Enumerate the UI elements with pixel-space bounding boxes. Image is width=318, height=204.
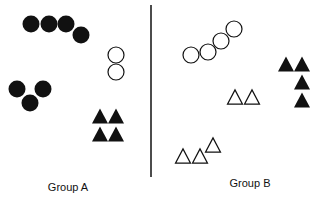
filled-triangle-b [294, 92, 310, 107]
open-triangle-b [206, 138, 221, 152]
filled-circle-a [35, 81, 52, 98]
open-triangle-b [176, 149, 191, 163]
filled-triangle-b [294, 74, 310, 89]
open-triangle-b [228, 90, 243, 104]
filled-circle-a [23, 16, 40, 33]
filled-triangle-a [92, 108, 108, 123]
filled-triangle-b [278, 56, 294, 71]
group-b-label: Group B [230, 177, 271, 189]
filled-triangle-a [108, 126, 124, 141]
open-triangle-b [193, 149, 208, 163]
open-circle-a [108, 47, 124, 63]
open-circle-b [226, 21, 242, 37]
open-circle-b [213, 33, 229, 49]
open-circle-a [108, 64, 124, 80]
filled-triangle-a [108, 108, 124, 123]
group-comparison-diagram: Group A Group B [0, 0, 318, 204]
filled-triangle-a [92, 126, 108, 141]
open-triangle-b [245, 90, 260, 104]
filled-circle-a [9, 81, 26, 98]
filled-circle-a [58, 16, 75, 33]
diagram-canvas [0, 0, 318, 204]
filled-circle-a [73, 27, 90, 44]
open-circle-b [200, 44, 216, 60]
open-circle-b [183, 47, 199, 63]
filled-circle-a [22, 95, 39, 112]
filled-circle-a [41, 16, 58, 33]
group-a-label: Group A [48, 181, 88, 193]
filled-triangle-b [294, 56, 310, 71]
